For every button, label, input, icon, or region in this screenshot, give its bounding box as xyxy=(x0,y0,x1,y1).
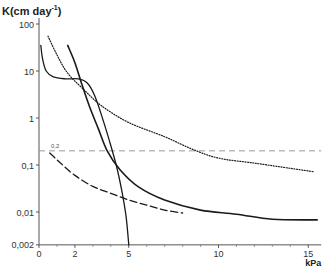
x-tick-label: 2 xyxy=(72,249,77,259)
y-tick-label: 1 xyxy=(29,114,34,124)
y-tick-label: 0,01 xyxy=(16,208,34,218)
y-tick-label: 10 xyxy=(24,67,34,77)
chart-plot: 0,2 1001010,10,010,0020251015kPa xyxy=(0,0,328,269)
data-series xyxy=(41,36,317,245)
y-tick-label: 100 xyxy=(19,20,34,30)
axes xyxy=(36,18,321,248)
x-tick-label: 0 xyxy=(36,249,41,259)
series-curve-b-solid-steep xyxy=(68,45,318,220)
x-tick-label: 5 xyxy=(126,249,131,259)
x-tick-label: 10 xyxy=(213,249,223,259)
x-axis-title: kPa xyxy=(305,258,322,268)
series-curve-d-dashed xyxy=(50,153,183,213)
y-tick-label: 0,1 xyxy=(21,161,34,171)
y-tick-label: 0,002 xyxy=(11,240,34,250)
reference-line-label: 0,2 xyxy=(51,143,60,149)
